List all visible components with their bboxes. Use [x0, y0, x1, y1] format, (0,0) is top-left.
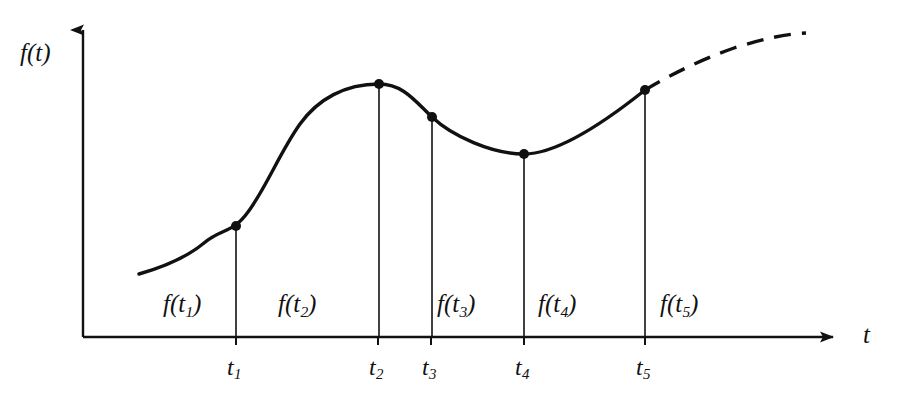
segment-label-subscript: 2: [301, 303, 309, 320]
sample-point-markers: [231, 79, 650, 231]
sample-point-t1: [231, 221, 241, 231]
figure-canvas: f(t) t f(t1) f(t2) f(t3) f(t4) f(t5) t1 …: [0, 0, 899, 406]
x-axis-label: t: [863, 322, 870, 347]
segment-label-close: ): [690, 290, 698, 317]
segment-label-f-t1: f(t1): [163, 291, 201, 316]
segment-label-close: ): [568, 290, 576, 317]
segment-label-subscript: 3: [460, 303, 468, 320]
segment-label-subscript: 1: [186, 303, 194, 320]
segment-label-close: ): [193, 290, 201, 317]
sample-point-t5: [640, 85, 650, 95]
segment-label-subscript: 4: [561, 303, 569, 320]
segment-label-close: ): [308, 290, 316, 317]
segment-label-base: f(t: [163, 290, 185, 317]
tick-label-t3: t3: [422, 355, 436, 379]
function-curve-dashed-extrapolation: [645, 33, 806, 90]
sample-point-t2: [374, 79, 384, 89]
segment-label-close: ): [467, 290, 475, 317]
segment-label-f-t4: f(t4): [538, 291, 576, 316]
segment-label-base: f(t: [538, 290, 560, 317]
tick-label-t4: t4: [515, 355, 529, 379]
segment-label-base: f(t: [437, 290, 459, 317]
sample-point-t3: [427, 112, 437, 122]
y-axis-label: f(t): [20, 40, 51, 65]
segment-label-f-t2: f(t2): [278, 291, 316, 316]
tick-label-t2: t2: [369, 355, 383, 379]
segment-label-base: f(t: [660, 290, 682, 317]
function-curve-solid: [139, 84, 645, 274]
segment-label-base: f(t: [278, 290, 300, 317]
tick-label-t5: t5: [636, 355, 650, 379]
segment-label-f-t3: f(t3): [437, 291, 475, 316]
sample-point-t4: [519, 149, 529, 159]
function-sampling-diagram: [0, 0, 899, 406]
segment-label-f-t5: f(t5): [660, 291, 698, 316]
segment-label-subscript: 5: [683, 303, 691, 320]
tick-label-t1: t1: [227, 355, 241, 379]
